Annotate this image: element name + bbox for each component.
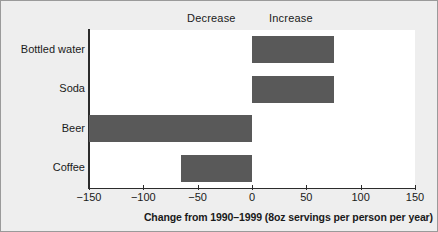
x-tick-label-0: 0	[249, 191, 255, 203]
x-tick--50	[198, 185, 199, 190]
category-axis-labels: Bottled waterSodaBeerCoffee	[1, 1, 85, 232]
category-label-beer: Beer	[3, 122, 85, 134]
bar-coffee	[181, 155, 252, 182]
x-tick-label--150: −150	[77, 191, 102, 203]
x-tick-100	[361, 185, 362, 190]
x-tick-label-50: 50	[300, 191, 312, 203]
x-axis-title: Change from 1990–1999 (8oz servings per …	[89, 211, 433, 223]
x-tick-0	[252, 185, 253, 190]
category-label-bottled-water: Bottled water	[3, 43, 85, 55]
x-tick-label-150: 150	[406, 191, 424, 203]
increase-header-label: Increase	[269, 12, 313, 24]
bar-soda	[252, 76, 334, 103]
x-tick--100	[143, 185, 144, 190]
category-label-soda: Soda	[3, 82, 85, 94]
x-tick-150	[415, 185, 416, 190]
bar-beer	[89, 115, 252, 142]
x-tick-label-100: 100	[351, 191, 369, 203]
y-axis-line	[88, 29, 90, 189]
x-tick-label--50: −50	[188, 191, 207, 203]
x-tick-50	[306, 185, 307, 190]
x-tick--150	[89, 185, 90, 190]
chart-figure: Decrease Increase Bottled waterSodaBeerC…	[0, 0, 438, 232]
decrease-header-label: Decrease	[187, 12, 236, 24]
x-tick-label--100: −100	[131, 191, 156, 203]
bar-bottled-water	[252, 36, 334, 63]
category-label-coffee: Coffee	[3, 161, 85, 173]
